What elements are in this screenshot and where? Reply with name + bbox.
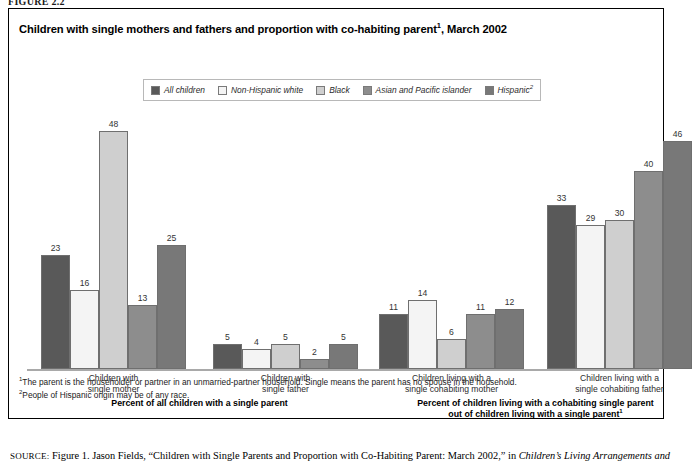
bar[interactable]	[466, 314, 495, 369]
bar-wrapper: 48	[99, 121, 128, 369]
bar-value-label: 40	[634, 159, 663, 169]
bar-wrapper: 23	[41, 121, 70, 369]
bar-value-label: 48	[99, 119, 128, 129]
category-label-line: single cohabiting father	[535, 384, 696, 395]
bar[interactable]	[408, 300, 437, 369]
legend-label-hispanic-text: Hispanic	[498, 85, 530, 95]
bar[interactable]	[213, 344, 242, 369]
legend-swatch-all-children	[151, 86, 160, 95]
bar-value-label: 11	[466, 302, 495, 312]
bar-group: 111461112	[379, 121, 524, 369]
legend-label-non-hispanic-white: Non-Hispanic white	[231, 85, 303, 95]
category-label-line: single cohabiting mother	[367, 384, 537, 395]
source-citation: SOURCE: Figure 1. Jason Fields, “Childre…	[10, 450, 666, 461]
bar[interactable]	[634, 171, 663, 369]
source-label: SOURCE:	[10, 451, 49, 461]
figure-title: Children with single mothers and fathers…	[19, 23, 507, 35]
bar[interactable]	[379, 314, 408, 369]
legend-label-asian-pacific-islander: Asian and Pacific islander	[376, 85, 472, 95]
section-label-cohabiting: Percent of children living with a cohabi…	[371, 398, 696, 420]
bar-wrapper: 5	[271, 121, 300, 369]
bar-group: 2316481325	[41, 121, 186, 369]
category-label-cohabiting-mother: Children living with asingle cohabiting …	[367, 373, 537, 395]
bar-wrapper: 29	[576, 121, 605, 369]
bar-wrapper: 30	[605, 121, 634, 369]
bar-value-label: 30	[605, 208, 634, 218]
bar-wrapper: 25	[157, 121, 186, 369]
chart-plot-area: 2316481325545251114611123329304046	[27, 109, 659, 371]
bar-value-label: 11	[379, 302, 408, 312]
legend-item-non-hispanic-white: Non-Hispanic white	[218, 85, 303, 95]
bar[interactable]	[41, 255, 70, 369]
bar-value-label: 12	[495, 297, 524, 307]
bar-value-label: 33	[547, 193, 576, 203]
bar-wrapper: 2	[300, 121, 329, 369]
section-label-line: Percent of all children with a single pa…	[35, 398, 365, 409]
legend-swatch-asian-pacific-islander	[363, 86, 372, 95]
figure-number-label: FIGURE 2.2	[8, 0, 65, 6]
bar[interactable]	[547, 205, 576, 369]
legend-swatch-non-hispanic-white	[218, 86, 227, 95]
bar-wrapper: 33	[547, 121, 576, 369]
bar[interactable]	[437, 339, 466, 369]
bar[interactable]	[663, 141, 692, 369]
bar[interactable]	[300, 359, 329, 369]
source-text: Figure 1. Jason Fields, “Children with S…	[49, 450, 518, 461]
bar-wrapper: 16	[70, 121, 99, 369]
bar-value-label: 6	[437, 327, 466, 337]
bar-wrapper: 11	[379, 121, 408, 369]
bar-wrapper: 46	[663, 121, 692, 369]
figure-title-text: Children with single mothers and fathers…	[19, 23, 437, 35]
bar[interactable]	[242, 349, 271, 369]
bar-wrapper: 6	[437, 121, 466, 369]
bar-value-label: 46	[663, 129, 692, 139]
category-label-single-mother: Children withsingle mother	[29, 373, 199, 395]
category-label-single-father: Children withsingle father	[201, 373, 371, 395]
chart-legend: All children Non-Hispanic white Black As…	[143, 79, 541, 101]
bar[interactable]	[70, 290, 99, 369]
bar[interactable]	[271, 344, 300, 369]
category-label-line: Children living with a	[367, 373, 537, 384]
bar-wrapper: 13	[128, 121, 157, 369]
bar-value-label: 5	[213, 332, 242, 342]
legend-item-asian-pacific-islander: Asian and Pacific islander	[363, 85, 472, 95]
bar-value-label: 5	[271, 332, 300, 342]
legend-item-all-children: All children	[151, 85, 205, 95]
bar-wrapper: 14	[408, 121, 437, 369]
bar-wrapper: 40	[634, 121, 663, 369]
legend-label-black: Black	[329, 85, 349, 95]
legend-label-all-children: All children	[164, 85, 205, 95]
figure-title-suffix: , March 2002	[441, 23, 507, 35]
legend-swatch-hispanic	[485, 86, 494, 95]
source-italic-title: Children’s Living Arrangements and	[519, 450, 670, 461]
figure-panel: Children with single mothers and fathers…	[8, 8, 664, 419]
category-label-line: Children with	[201, 373, 371, 384]
bar[interactable]	[128, 305, 157, 369]
section-label-line: Percent of children living with a cohabi…	[371, 398, 696, 409]
bar-value-label: 13	[128, 293, 157, 303]
bar[interactable]	[157, 245, 186, 369]
bar-value-label: 16	[70, 278, 99, 288]
category-label-line: single mother	[29, 384, 199, 395]
bar-value-label: 4	[242, 337, 271, 347]
legend-item-black: Black	[316, 85, 349, 95]
bar-wrapper: 5	[329, 121, 358, 369]
chart-baseline-axis	[27, 369, 659, 371]
bar[interactable]	[99, 131, 128, 369]
bar-value-label: 29	[576, 213, 605, 223]
bar[interactable]	[495, 309, 524, 369]
legend-label-hispanic: Hispanic2	[498, 85, 533, 95]
bar-wrapper: 4	[242, 121, 271, 369]
bar[interactable]	[605, 220, 634, 369]
category-label-line: Children with	[29, 373, 199, 384]
bar[interactable]	[576, 225, 605, 369]
bar[interactable]	[329, 344, 358, 369]
bar-group: 54525	[213, 121, 358, 369]
bar-value-label: 23	[41, 243, 70, 253]
legend-label-hispanic-superscript: 2	[530, 84, 533, 90]
legend-item-hispanic: Hispanic2	[485, 85, 533, 95]
section-label-all-children: Percent of all children with a single pa…	[35, 398, 365, 409]
category-label-cohabiting-father: Children living with asingle cohabiting …	[535, 373, 696, 395]
bar-value-label: 2	[300, 347, 329, 357]
section-label-line: out of children living with a single par…	[371, 409, 696, 420]
